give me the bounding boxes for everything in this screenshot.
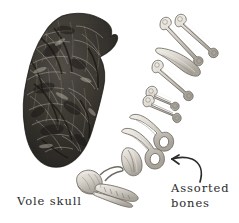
owl-pellet-figure: Vole skull Assorted bones bbox=[0, 0, 239, 223]
curved-arrow-icon bbox=[172, 155, 201, 182]
caption-assorted-bones-line2: bones bbox=[171, 196, 230, 211]
caption-assorted-bones-line1: Assorted bbox=[171, 181, 230, 196]
caption-vole-skull: Vole skull bbox=[17, 194, 82, 209]
caption-assorted-bones: Assorted bones bbox=[171, 181, 230, 210]
